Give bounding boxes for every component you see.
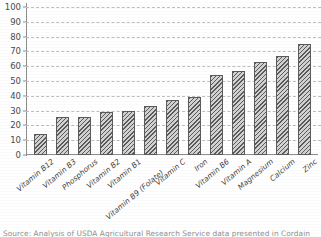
bar[interactable] [100,112,113,155]
y-tick-label: 90 [10,17,21,27]
bar-series [26,7,318,155]
y-tick-label: 100 [5,2,21,12]
y-tick-label: 60 [10,61,21,71]
bar[interactable] [276,56,289,155]
bar[interactable] [232,71,245,155]
bar-slot [293,7,315,155]
bar-slot [140,7,162,155]
bar[interactable] [144,106,157,155]
y-tick-label: 30 [10,106,21,116]
x-axis-labels: Vitamin B12Vitamin B3PhosphorusVitamin B… [26,157,318,232]
bar-slot [249,7,271,155]
bar[interactable] [122,111,135,155]
source-caption: Source: Analysis of USDA Agricultural Re… [3,229,321,237]
bar[interactable] [34,134,47,155]
bar-chart: 0102030405060708090100 [26,7,318,155]
bar[interactable] [188,97,201,155]
bar-slot [74,7,96,155]
chart-title-cropped [0,0,321,4]
bar-slot [118,7,140,155]
bar-slot [162,7,184,155]
bar-slot [271,7,293,155]
y-tick-label: 10 [10,135,21,145]
y-tick-label: 40 [10,91,21,101]
y-tick-label: 20 [10,120,21,130]
x-tick-label: Zinc [301,157,319,174]
bar[interactable] [56,117,69,155]
bar-slot [183,7,205,155]
plot-area: 0102030405060708090100 [26,7,318,155]
y-tick-label: 50 [10,76,21,86]
bar-slot [30,7,52,155]
bar[interactable] [78,117,91,155]
y-tick-label: 80 [10,32,21,42]
bar-slot [205,7,227,155]
y-tick-label: 0 [16,150,21,160]
y-tick-label: 70 [10,46,21,56]
bar-slot [52,7,74,155]
bar-slot [96,7,118,155]
bar[interactable] [254,62,267,155]
bar[interactable] [166,100,179,155]
bar[interactable] [210,75,223,155]
bar[interactable] [298,44,311,155]
bar-slot [227,7,249,155]
